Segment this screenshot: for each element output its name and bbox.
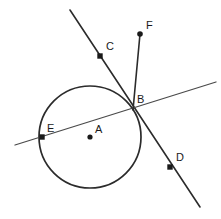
point-d-marker	[167, 164, 172, 169]
geometry-canvas: A B C D E F	[0, 0, 221, 219]
point-e-marker	[39, 134, 44, 139]
point-f-marker	[137, 31, 143, 37]
label-d: D	[176, 151, 184, 163]
line-cd	[70, 10, 200, 207]
geometry-figure: A B C D E F	[0, 0, 221, 219]
label-a: A	[95, 123, 103, 135]
label-c: C	[106, 40, 114, 52]
label-e: E	[47, 122, 54, 134]
point-a-marker	[87, 134, 92, 139]
label-b: B	[137, 93, 144, 105]
point-c-marker	[97, 53, 102, 58]
label-f: F	[146, 19, 153, 31]
